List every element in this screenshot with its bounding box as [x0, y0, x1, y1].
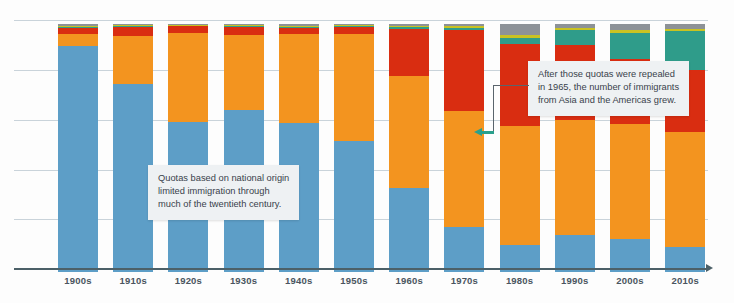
x-axis-line	[14, 268, 708, 270]
chart-canvas: 1900s1910s1920s1930s1940s1950s1960s1970s…	[0, 0, 734, 303]
annotation-quotas: Quotas based on national origin limited …	[148, 165, 299, 220]
bar-1910s[interactable]	[113, 24, 153, 272]
bar-segment-1930s-americas[interactable]	[224, 35, 264, 109]
x-axis-tick-1920s: 1920s	[158, 275, 218, 286]
bar-segment-1950s-asia[interactable]	[334, 27, 374, 34]
x-axis-tick-1990s: 1990s	[545, 275, 605, 286]
annotation-arrow-shaft	[481, 131, 494, 134]
annotation-quotas-line-1: Quotas based on national origin	[158, 172, 289, 185]
x-axis-tick-2010s: 2010s	[655, 275, 715, 286]
bar-segment-1920s-americas[interactable]	[168, 33, 208, 122]
bar-segment-1970s-europe[interactable]	[444, 227, 484, 272]
x-axis-arrow-icon	[706, 264, 713, 272]
annotation-repeal-line-1: After those quotas were repealed	[538, 68, 679, 81]
x-axis-tick-2000s: 2000s	[600, 275, 660, 286]
bar-1950s[interactable]	[334, 24, 374, 272]
bar-segment-1990s-americas[interactable]	[555, 120, 595, 235]
bar-segment-2000s-africa[interactable]	[610, 33, 650, 59]
bar-1920s[interactable]	[168, 24, 208, 272]
plot-area	[0, 0, 734, 272]
bar-segment-1900s-americas[interactable]	[58, 34, 98, 46]
x-axis-tick-1900s: 1900s	[48, 275, 108, 286]
x-axis-tick-1930s: 1930s	[214, 275, 274, 286]
annotation-repeal: After those quotas were repealed in 1965…	[528, 61, 689, 116]
bar-1900s[interactable]	[58, 24, 98, 272]
bar-segment-1910s-americas[interactable]	[113, 36, 153, 83]
x-axis-tick-1970s: 1970s	[434, 275, 494, 286]
gridline	[14, 20, 708, 21]
annotation-quotas-line-2: limited immigration through	[158, 185, 289, 198]
annotation-leader-line-vertical	[493, 85, 494, 132]
bar-1940s[interactable]	[279, 24, 319, 272]
x-axis-tick-1980s: 1980s	[490, 275, 550, 286]
bar-segment-1950s-europe[interactable]	[334, 141, 374, 272]
bar-segment-1980s-americas[interactable]	[500, 126, 540, 245]
annotation-quotas-line-3: much of the twentieth century.	[158, 198, 289, 211]
bar-segment-1960s-europe[interactable]	[389, 188, 429, 272]
annotation-arrow-head-icon	[474, 128, 482, 136]
x-axis-tick-1910s: 1910s	[103, 275, 163, 286]
annotation-repeal-line-2: in 1965, the number of immigrants	[538, 81, 679, 94]
x-axis-labels: 1900s1910s1920s1930s1940s1950s1960s1970s…	[0, 275, 734, 295]
bar-1960s[interactable]	[389, 24, 429, 272]
bar-segment-2000s-europe[interactable]	[610, 239, 650, 272]
x-axis-tick-1950s: 1950s	[324, 275, 384, 286]
bar-segment-1970s-asia[interactable]	[444, 30, 484, 111]
bar-segment-1910s-asia[interactable]	[113, 27, 153, 37]
bar-segment-1960s-americas[interactable]	[389, 76, 429, 188]
bar-segment-1980s-not-specified[interactable]	[500, 24, 540, 35]
annotation-leader-line-horizontal	[493, 85, 529, 86]
bar-1930s[interactable]	[224, 24, 264, 272]
x-axis-tick-1960s: 1960s	[379, 275, 439, 286]
bar-segment-1990s-europe[interactable]	[555, 235, 595, 272]
bar-segment-1990s-africa[interactable]	[555, 30, 595, 45]
bar-segment-1950s-americas[interactable]	[334, 34, 374, 141]
bar-segment-2000s-americas[interactable]	[610, 124, 650, 238]
bar-1970s[interactable]	[444, 24, 484, 272]
x-axis-tick-1940s: 1940s	[269, 275, 329, 286]
bar-segment-2010s-americas[interactable]	[665, 132, 705, 247]
bar-segment-1960s-asia[interactable]	[389, 29, 429, 76]
bar-segment-1940s-americas[interactable]	[279, 34, 319, 123]
bar-segment-1930s-asia[interactable]	[224, 27, 264, 36]
bar-segment-1900s-europe[interactable]	[58, 46, 98, 272]
annotation-repeal-line-3: from Asia and the Americas grew.	[538, 94, 679, 107]
